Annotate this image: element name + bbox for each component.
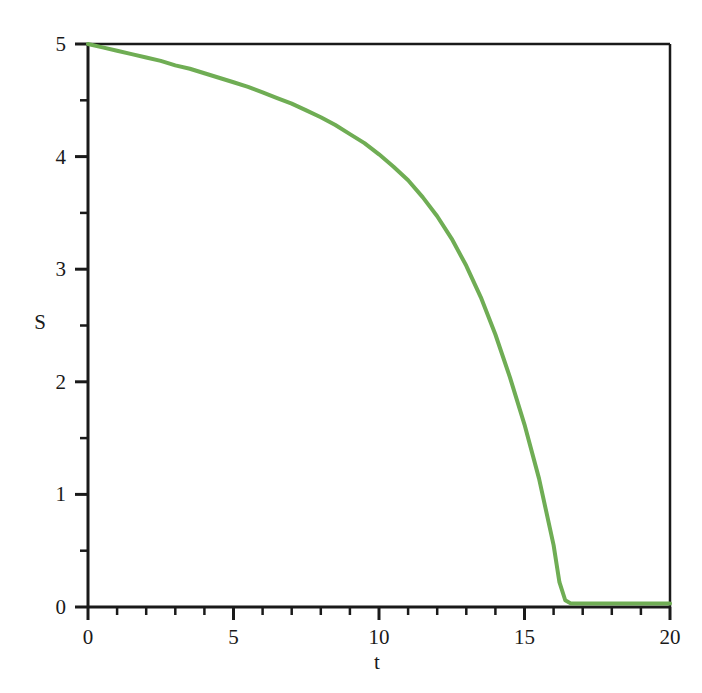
y-axis-title: S [34,312,46,333]
x-tick-label: 15 [514,627,535,648]
y-tick-label: 2 [56,371,67,392]
y-tick-label: 0 [56,597,67,618]
y-tick-label: 1 [56,484,67,505]
x-tick-label: 0 [83,627,94,648]
x-tick-label: 5 [228,627,239,648]
data-series [88,44,670,604]
x-tick-label: 20 [660,627,681,648]
x-tick-label: 10 [369,627,390,648]
axis-ticks [75,44,670,620]
x-axis-title: t [374,652,380,673]
plot-frame [88,44,670,607]
chart-figure: 01234505101520 S t [0,0,702,693]
y-tick-label: 5 [56,34,67,55]
y-tick-label: 3 [56,259,67,280]
plot-canvas [0,0,702,693]
y-tick-label: 4 [56,146,67,167]
